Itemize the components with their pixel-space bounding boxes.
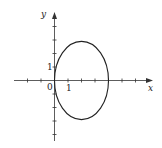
axes: [14, 12, 153, 141]
y-axis-arrow-icon: [52, 12, 57, 19]
origin-label: 0: [47, 82, 53, 92]
x-tick-label-1: 1: [66, 83, 72, 93]
chart-svg: y x 0 1 1: [0, 0, 162, 148]
y-axis-label: y: [40, 9, 47, 19]
parametric-curve-plot: y x 0 1 1: [0, 0, 162, 148]
y-tick-label-1: 1: [47, 62, 53, 72]
x-axis-label: x: [148, 83, 153, 93]
